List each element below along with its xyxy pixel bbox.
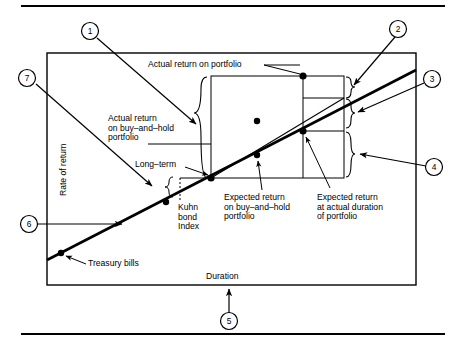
- buy-and-hold-line: [211, 98, 344, 178]
- treasury-bills-point: [58, 250, 64, 256]
- actual-return-buy-and-hold-point: [254, 118, 260, 124]
- long-term-point: [207, 174, 214, 181]
- leader-expected-return-actual-duration: [306, 137, 330, 188]
- diagram-svg: [0, 0, 457, 347]
- label-treasury-bills: Treasury bills: [88, 259, 139, 269]
- x-axis-label: Duration: [206, 272, 238, 282]
- callout-2-arrow: [354, 37, 395, 85]
- market-line: [47, 70, 416, 260]
- label-expected-return-actual-duration: Expected return at actual duration of po…: [317, 193, 383, 222]
- long-term-brace: [165, 177, 173, 197]
- label-expected-return-buy-and-hold: Expected return on buy–and–hold portfoli…: [224, 193, 290, 222]
- callout-label-1[interactable]: 1: [82, 26, 98, 36]
- left-brace: [194, 77, 207, 178]
- label-actual-return-buy-and-hold: Actual return on buy–and–hold portfolio: [108, 114, 174, 143]
- figure-container: 1 2 3 4 5 6 7 Actual return on portfolio…: [0, 0, 457, 347]
- brace-segment-2: [346, 77, 355, 98]
- callout-label-3[interactable]: 3: [424, 74, 440, 84]
- kuhn-bond-index-point: [163, 199, 169, 205]
- brace-segment-4: [346, 132, 355, 177]
- leader-long-term: [185, 167, 208, 175]
- expected-return-actual-duration-point: [299, 127, 306, 134]
- leader-expected-return-buy-and-hold: [258, 161, 262, 190]
- decomposition-box: [211, 76, 344, 178]
- callout-1-arrow: [97, 38, 196, 124]
- callout-label-7[interactable]: 7: [19, 73, 35, 83]
- callout-3-arrow: [358, 83, 424, 112]
- callout-label-2[interactable]: 2: [390, 24, 406, 34]
- label-long-term: Long–term: [135, 160, 176, 170]
- y-axis-label: Rate of return: [58, 143, 68, 196]
- leader-treasury-bills: [66, 256, 86, 264]
- callout-label-5[interactable]: 5: [221, 316, 237, 326]
- label-actual-return-on-portfolio: Actual return on portfolio: [148, 60, 242, 70]
- callout-label-4[interactable]: 4: [426, 162, 442, 172]
- expected-return-buy-and-hold-point: [254, 152, 260, 158]
- actual-return-on-portfolio-point: [299, 72, 306, 79]
- leader-actual-return-on-portfolio: [264, 65, 300, 74]
- label-kuhn-bond-index: Kuhn bond Index: [178, 203, 199, 232]
- plot-frame: [47, 53, 416, 285]
- callout-label-6[interactable]: 6: [21, 219, 37, 229]
